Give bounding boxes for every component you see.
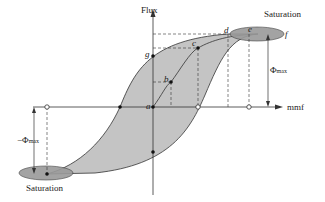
diagram-canvas xyxy=(0,0,325,202)
neg-phi-max-label: −Φmax xyxy=(17,136,39,145)
point-neg-saturation xyxy=(45,172,49,176)
neg-phi-max-arrow-up-icon xyxy=(32,107,36,113)
label-c: c xyxy=(192,39,196,48)
label-g: g xyxy=(145,50,150,59)
phi-max-arrow-down-icon xyxy=(266,101,270,107)
point-a xyxy=(151,105,155,109)
point-neg-remanence xyxy=(151,150,155,154)
point-g xyxy=(151,54,155,58)
open-point-neg-projection xyxy=(45,105,49,109)
x-axis-arrow-icon xyxy=(275,105,283,110)
phi-max-label: Φmax xyxy=(270,66,287,75)
saturation-label-top: Saturation xyxy=(264,10,301,19)
point-b xyxy=(169,80,173,84)
label-e: e xyxy=(248,25,252,34)
point-coercive xyxy=(118,105,122,109)
label-b: b xyxy=(164,75,169,84)
label-a: a xyxy=(146,102,151,111)
x-axis-label: mmf xyxy=(287,103,304,112)
label-d: d xyxy=(224,26,229,35)
open-point-e-projection xyxy=(247,105,251,109)
open-point-c-projection xyxy=(196,105,200,109)
saturation-label-bottom: Saturation xyxy=(26,184,63,193)
y-axis-label: Flux xyxy=(141,6,158,15)
label-f: f xyxy=(285,30,288,39)
hysteresis-diagram: Flux mmf Saturation Saturation a b c d e… xyxy=(0,0,325,202)
saturation-ellipse-top xyxy=(230,27,284,41)
point-c xyxy=(196,46,200,50)
